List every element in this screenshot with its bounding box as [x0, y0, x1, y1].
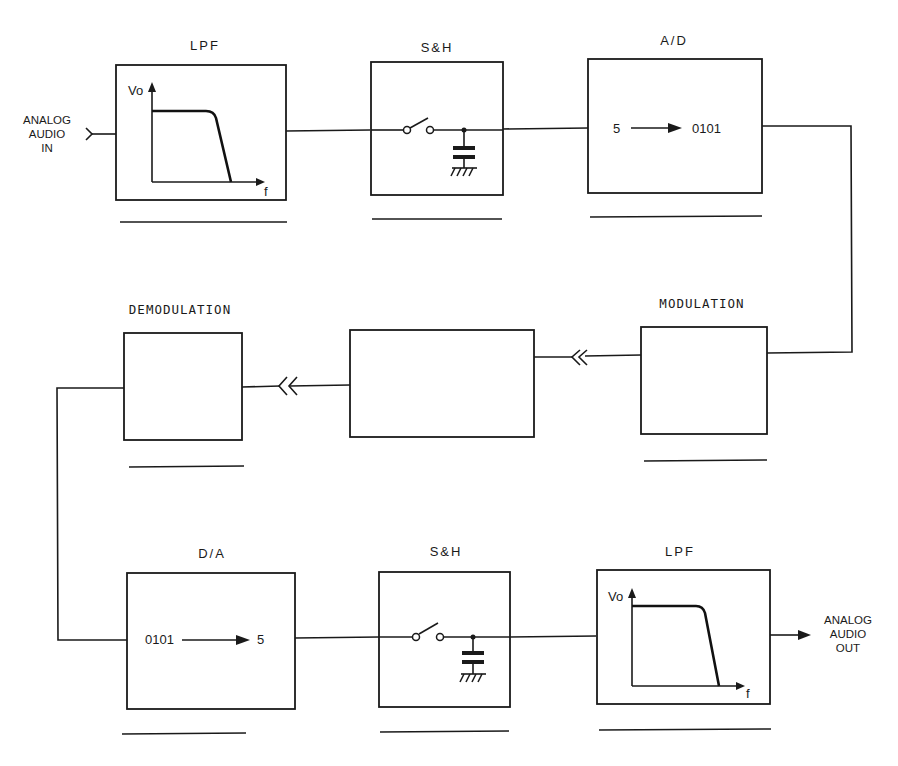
underline — [380, 731, 509, 732]
axis-label-vo: Vo — [128, 83, 143, 98]
block-d-to-a: D/A 0101 5 — [122, 546, 295, 734]
underline — [590, 216, 762, 217]
output-label-line-1: ANALOG — [824, 614, 872, 626]
output-label-line-3: OUT — [836, 642, 860, 654]
ad-output-value: 0101 — [692, 121, 721, 136]
output-label-line-2: AUDIO — [830, 628, 866, 640]
da-output-value: 5 — [257, 632, 264, 647]
underline — [122, 733, 246, 734]
pcm-audio-block-diagram: ANALOG AUDIO IN LPF Vo f S&H — [0, 0, 898, 766]
axis-label-vo: Vo — [608, 589, 623, 604]
analog-audio-out: ANALOG AUDIO OUT — [770, 614, 872, 654]
block-label-modulation: MODULATION — [659, 296, 744, 311]
wire-demodulation-to-da — [57, 388, 127, 640]
da-input-value: 0101 — [145, 632, 174, 647]
block-demodulation: DEMODULATION — [124, 302, 244, 467]
block-label-sh-input: S&H — [421, 40, 454, 55]
underline — [644, 460, 767, 461]
input-label-line-3: IN — [41, 142, 53, 154]
axis-label-f: f — [264, 184, 268, 199]
wire-lpf-to-sh — [286, 130, 370, 131]
underline — [129, 466, 244, 467]
block-label-demodulation: DEMODULATION — [129, 302, 231, 317]
sh-input-box — [371, 62, 503, 195]
input-label-line-1: ANALOG — [23, 114, 71, 126]
wire-da-to-sh — [295, 637, 379, 638]
block-lpf-input: LPF Vo f — [116, 38, 287, 222]
ad-input-value: 5 — [613, 121, 620, 136]
block-label-lpf-output: LPF — [665, 544, 695, 559]
underline — [599, 729, 771, 730]
block-modulation: MODULATION — [641, 296, 767, 461]
analog-audio-in: ANALOG AUDIO IN — [23, 114, 116, 154]
block-label-da: D/A — [198, 546, 226, 561]
input-jack-icon — [86, 128, 92, 140]
block-sample-hold-input: S&H — [371, 40, 503, 219]
demodulation-box — [124, 333, 242, 440]
block-label-sh-output: S&H — [430, 544, 463, 559]
wire-ad-to-modulation — [762, 126, 852, 353]
wire-sh-to-ad — [503, 128, 588, 129]
wire-sh-to-lpf — [510, 636, 596, 637]
sh-output-box — [379, 572, 510, 707]
axis-label-f: f — [746, 686, 750, 701]
block-sample-hold-output: S&H — [379, 544, 510, 732]
wire-modulation-to-channel — [585, 355, 641, 356]
wire-channel-to-demodulation — [290, 385, 350, 386]
channel-box — [350, 330, 534, 437]
block-a-to-d: A/D 5 0101 — [588, 33, 762, 217]
input-label-line-2: AUDIO — [29, 128, 65, 140]
block-label-ad: A/D — [660, 33, 688, 48]
block-channel — [350, 330, 534, 437]
modulation-box — [641, 327, 767, 434]
transmission-arrow-icon — [572, 350, 587, 365]
block-lpf-output: LPF Vo f — [597, 544, 771, 730]
output-arrow-icon — [798, 630, 811, 640]
block-label-lpf-input: LPF — [190, 38, 220, 53]
